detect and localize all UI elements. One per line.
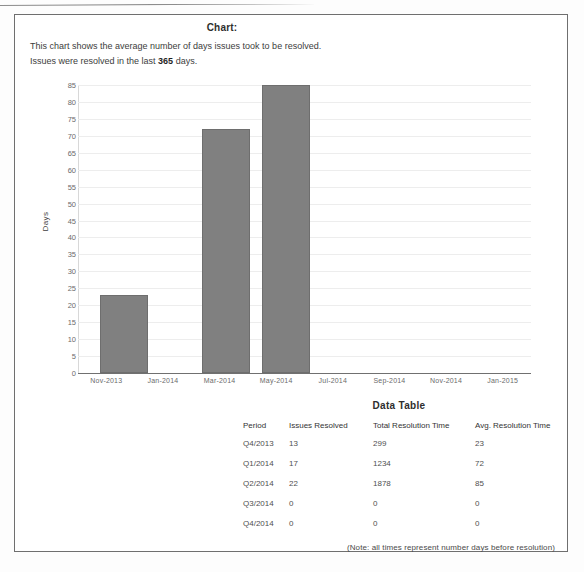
bar-chart: Days 0510152025303540455055606570758085 … [30, 77, 554, 397]
data-table-title: Data Table [243, 400, 555, 411]
y-axis-tick-label: 70 [50, 132, 76, 141]
cell-avg-resolution-time: 0 [475, 499, 555, 519]
column-header-avg-resolution-time: Avg. Resolution Time [475, 421, 555, 439]
table-row: Q4/2014000 [243, 519, 555, 539]
chart-description: This chart shows the average number of d… [30, 39, 450, 69]
y-axis-tick-label: 15 [50, 318, 76, 327]
y-axis-tick-label: 35 [50, 250, 76, 259]
cell-avg-resolution-time: 23 [475, 439, 555, 459]
y-axis-tick-label: 10 [50, 335, 76, 344]
cell-issues-resolved: 13 [289, 439, 373, 459]
table-row: Q1/201417123472 [243, 459, 555, 479]
y-axis-tick-label: 65 [50, 149, 76, 158]
chart-bar [262, 85, 310, 373]
y-axis-tick-label: 50 [50, 200, 76, 209]
chart-bar [202, 129, 250, 373]
cell-avg-resolution-time: 72 [475, 459, 555, 479]
x-axis-tick-label: Nov-2014 [430, 377, 462, 384]
column-header-total-resolution-time: Total Resolution Time [373, 421, 475, 439]
y-axis-tick-label: 80 [50, 98, 76, 107]
data-table-section: Data Table Period Issues Resolved Total … [243, 400, 555, 552]
data-table-note: (Note: all times represent number days b… [243, 543, 555, 552]
cell-period: Q4/2014 [243, 519, 289, 539]
description-days-count: 365 [158, 56, 173, 66]
y-axis-tick-label: 75 [50, 115, 76, 124]
page-title: Chart: [15, 22, 569, 33]
table-body: Q4/20131329923Q1/201417123472Q2/20142218… [243, 439, 555, 539]
cell-total-resolution-time: 299 [373, 439, 475, 459]
cell-total-resolution-time: 0 [373, 499, 475, 519]
report-frame: Chart: This chart shows the average numb… [14, 14, 568, 552]
table-header-row: Period Issues Resolved Total Resolution … [243, 421, 555, 439]
chart-plot-area: 0510152025303540455055606570758085 Nov-2… [78, 85, 531, 374]
data-table: Period Issues Resolved Total Resolution … [243, 421, 555, 539]
cell-avg-resolution-time: 0 [475, 519, 555, 539]
cell-period: Q4/2013 [243, 439, 289, 459]
y-axis-tick-label: 0 [50, 369, 76, 378]
y-axis-tick-label: 40 [50, 233, 76, 242]
table-row: Q3/2014000 [243, 499, 555, 519]
description-line-1: This chart shows the average number of d… [30, 39, 450, 54]
y-axis-tick-label: 60 [50, 166, 76, 175]
cell-issues-resolved: 0 [289, 499, 373, 519]
y-axis-tick-label: 30 [50, 267, 76, 276]
cell-total-resolution-time: 1234 [373, 459, 475, 479]
cell-issues-resolved: 22 [289, 479, 373, 499]
y-axis-tick-label: 85 [50, 81, 76, 90]
table-row: Q4/20131329923 [243, 439, 555, 459]
cell-period: Q1/2014 [243, 459, 289, 479]
x-axis-tick-label: Mar-2014 [204, 377, 236, 384]
column-header-period: Period [243, 421, 289, 439]
y-axis-tick-label: 55 [50, 183, 76, 192]
x-axis-tick-label: Jan-2014 [148, 377, 179, 384]
x-axis-tick-label: Nov-2013 [90, 377, 122, 384]
cell-issues-resolved: 0 [289, 519, 373, 539]
y-axis-line [78, 85, 79, 374]
x-axis-tick-label: Jul-2014 [319, 377, 347, 384]
description-line-2-prefix: Issues were resolved in the last [30, 56, 156, 66]
x-axis-tick-label: Jan-2015 [487, 377, 518, 384]
cell-issues-resolved: 17 [289, 459, 373, 479]
y-axis-tick-label: 20 [50, 301, 76, 310]
x-axis-tick-label: May-2014 [260, 377, 293, 384]
x-axis-line [78, 373, 531, 374]
description-line-2-suffix: days. [176, 56, 198, 66]
column-header-issues-resolved: Issues Resolved [289, 421, 373, 439]
x-axis-tick-label: Sep-2014 [373, 377, 405, 384]
cell-total-resolution-time: 0 [373, 519, 475, 539]
y-axis-tick-label: 45 [50, 217, 76, 226]
cell-total-resolution-time: 1878 [373, 479, 475, 499]
table-row: Q2/201422187885 [243, 479, 555, 499]
cell-period: Q3/2014 [243, 499, 289, 519]
page-top-rule [0, 4, 584, 7]
cell-avg-resolution-time: 85 [475, 479, 555, 499]
description-line-2: Issues were resolved in the last 365 day… [30, 54, 450, 69]
cell-period: Q2/2014 [243, 479, 289, 499]
y-axis-tick-label: 25 [50, 284, 76, 293]
y-axis-tick-label: 5 [50, 352, 76, 361]
chart-bar [100, 295, 148, 373]
